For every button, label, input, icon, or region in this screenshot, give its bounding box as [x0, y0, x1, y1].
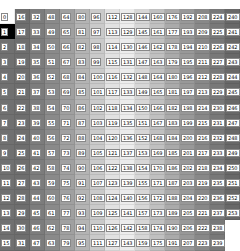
grid-cell: 15 [0, 235, 15, 250]
cell-value-label: 201 [181, 149, 195, 157]
cell-value-label: 224 [211, 13, 225, 21]
cell-value-label: 243 [226, 58, 240, 66]
cell-value-label: 46 [31, 224, 41, 232]
grid-cell: 248 [225, 130, 240, 145]
grid-cell: 18 [15, 39, 30, 54]
cell-value-label: 71 [61, 119, 71, 127]
grid-cell: 115 [105, 54, 120, 69]
grid-cell: 19 [15, 54, 30, 69]
cell-value-label: 31 [16, 239, 26, 247]
grid-cell: 172 [150, 190, 165, 205]
cell-value-label: 189 [166, 209, 180, 217]
cell-value-label: 219 [196, 179, 210, 187]
cell-value-label: 242 [226, 43, 240, 51]
grid-cell: 94 [75, 220, 90, 235]
cell-value-label: 213 [196, 88, 210, 96]
cell-value-label: 155 [136, 179, 150, 187]
cell-value-label: 114 [106, 43, 120, 51]
cell-value-label: 208 [196, 13, 210, 21]
cell-value-label: 108 [91, 194, 105, 202]
cell-value-label: 168 [151, 134, 165, 142]
cell-value-label: 99 [91, 58, 101, 66]
grid-cell: 38 [30, 100, 45, 115]
grid-cell: 61 [45, 205, 60, 220]
grid-cell: 152 [135, 130, 150, 145]
grid-cell: 176 [165, 9, 180, 24]
grid-cell: 72 [60, 130, 75, 145]
cell-value-label: 52 [46, 73, 56, 81]
grid-cell: 140 [120, 190, 135, 205]
cell-value-label: 206 [181, 224, 195, 232]
grid-cell: 99 [90, 54, 105, 69]
cell-value-label: 177 [166, 28, 180, 36]
grid-cell: 181 [165, 84, 180, 99]
grid-cell: 122 [105, 160, 120, 175]
grid-cell: 9 [0, 145, 15, 160]
grid-cell: 36 [30, 69, 45, 84]
cell-value-label: 61 [46, 209, 56, 217]
grid-cell: 162 [150, 39, 165, 54]
cell-value-label: 16 [16, 13, 26, 21]
cell-value-label: 138 [121, 164, 135, 172]
grid-cell: 227 [210, 54, 225, 69]
cell-value-label: 151 [136, 119, 150, 127]
cell-value-label: 60 [46, 194, 56, 202]
cell-value-label: 30 [16, 224, 26, 232]
grid-cell: 71 [60, 115, 75, 130]
cell-value-label: 143 [121, 239, 135, 247]
cell-value-label: 253 [226, 209, 240, 217]
cell-value-label: 209 [196, 28, 210, 36]
grid-cell: 42 [30, 160, 45, 175]
cell-value-label: 191 [166, 239, 180, 247]
grid-cell: 136 [120, 130, 135, 145]
cell-value-label: 140 [121, 194, 135, 202]
cell-value-label: 227 [211, 58, 225, 66]
cell-value-label: 135 [121, 119, 135, 127]
cell-value-label: 230 [211, 104, 225, 112]
cell-value-label: 160 [151, 13, 165, 21]
cell-value-label: 237 [211, 209, 225, 217]
cell-value-label: 182 [166, 104, 180, 112]
cell-value-label: 144 [136, 13, 150, 21]
grid-cell: 225 [210, 24, 225, 39]
grid-cell: 73 [60, 145, 75, 160]
grid-cell: 165 [150, 84, 165, 99]
grid-cell: 80 [75, 9, 90, 24]
cell-value-label: 56 [46, 134, 56, 142]
cell-value-label: 178 [166, 43, 180, 51]
grid-cell: 91 [75, 175, 90, 190]
grid-cell: 131 [120, 54, 135, 69]
grid-cell: 17 [15, 24, 30, 39]
grid-cell: 117 [105, 84, 120, 99]
grid-cell: 157 [135, 205, 150, 220]
grid-cell: 182 [165, 100, 180, 115]
grid-cell: 160 [150, 9, 165, 24]
cell-value-label: 24 [16, 134, 26, 142]
cell-value-label: 226 [211, 43, 225, 51]
cell-value-label: 250 [226, 164, 240, 172]
cell-value-label: 68 [61, 73, 71, 81]
grid-cell: 158 [135, 220, 150, 235]
grid-cell: 185 [165, 145, 180, 160]
grid-cell: 96 [90, 9, 105, 24]
grid-cell: 151 [135, 115, 150, 130]
cell-value-label: 241 [226, 28, 240, 36]
cell-value-label: 238 [211, 224, 225, 232]
cell-value-label: 78 [61, 224, 71, 232]
grid-cell: 230 [210, 100, 225, 115]
grid-cell: 213 [195, 84, 210, 99]
grid-cell: 175 [150, 235, 165, 250]
grid-cell: 98 [90, 39, 105, 54]
cell-value-label: 190 [166, 224, 180, 232]
grid-cell: 229 [210, 84, 225, 99]
cell-value-label: 103 [91, 119, 105, 127]
grid-cell: 147 [135, 54, 150, 69]
grid-cell: 214 [195, 100, 210, 115]
cell-value-label: 53 [46, 88, 56, 96]
cell-value-label: 186 [166, 164, 180, 172]
grid-cell: 146 [135, 39, 150, 54]
grid-cell: 47 [30, 235, 45, 250]
cell-value-label: 252 [226, 194, 240, 202]
cell-value-label: 20 [16, 73, 26, 81]
cell-value-label: 134 [121, 104, 135, 112]
